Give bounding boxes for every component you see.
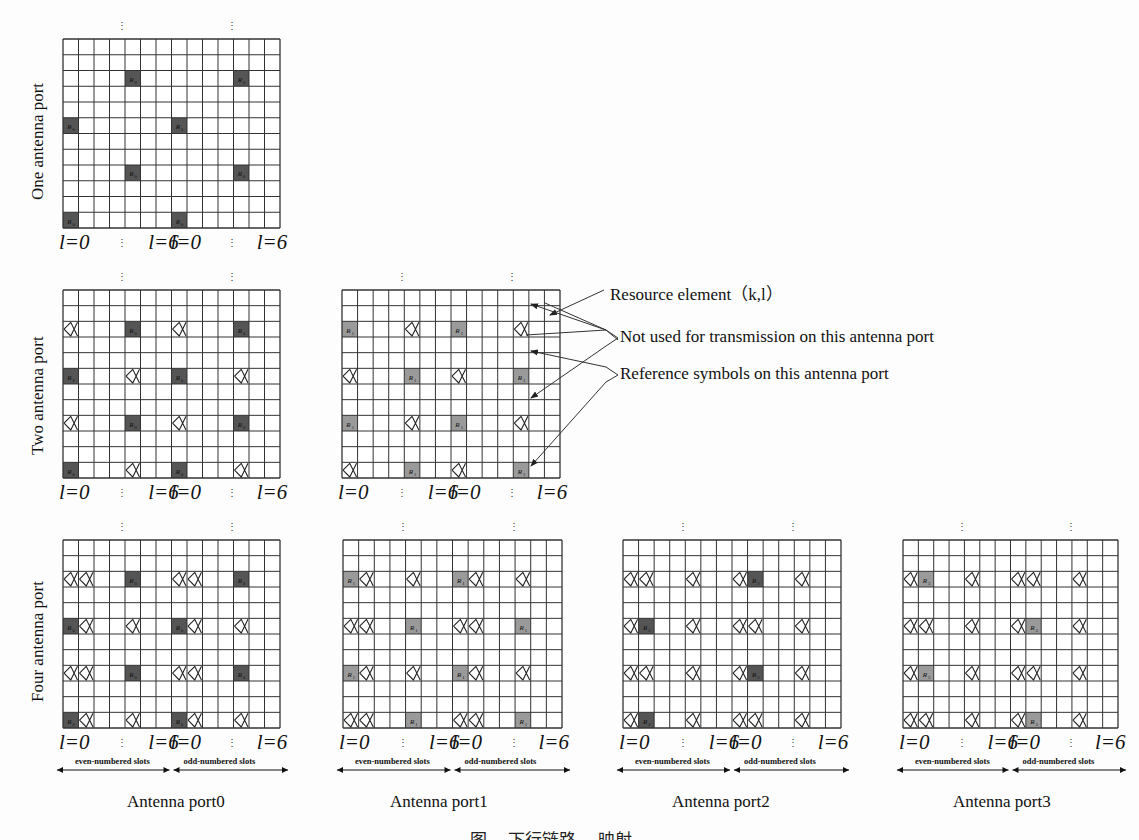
svg-text:1: 1 [352, 331, 354, 336]
svg-text:2: 2 [757, 581, 759, 586]
axis-label-l0: l=0 [171, 732, 202, 753]
ellipsis-vertical-icon: ⋮ [227, 272, 237, 282]
slot-label-odd: odd-numbered slots [465, 756, 537, 766]
svg-text:1: 1 [462, 675, 464, 680]
row-label-one-antenna-port: One antenna port [28, 83, 48, 200]
svg-text:R: R [128, 577, 134, 585]
ellipsis-vertical-icon: ⋮ [117, 21, 127, 31]
ellipsis-vertical-icon: ⋮ [1066, 738, 1076, 748]
svg-text:R: R [128, 76, 134, 84]
svg-text:R: R [517, 374, 523, 382]
svg-text:R: R [456, 671, 462, 679]
grid-four-port-antenna1: R1R1R1R1R1R1R1R1 [343, 540, 563, 729]
svg-text:1: 1 [352, 425, 354, 430]
svg-text:R: R [454, 327, 460, 335]
axis-label-l6: l=6 [539, 732, 570, 753]
svg-text:1: 1 [414, 378, 416, 383]
svg-text:2: 2 [648, 722, 650, 727]
row-label-four-antenna-port: Four antenna port [28, 581, 48, 702]
svg-text:2: 2 [648, 628, 650, 633]
svg-text:R: R [66, 624, 72, 632]
axis-label-l6: l=6 [537, 482, 568, 503]
svg-text:1: 1 [461, 425, 463, 430]
axis-label-l0: l=0 [450, 482, 481, 503]
port-label-2: Antenna port2 [672, 792, 770, 812]
ellipsis-vertical-icon: ⋮ [678, 738, 688, 748]
ellipsis-vertical-icon: ⋮ [397, 488, 407, 498]
svg-text:1: 1 [525, 722, 527, 727]
axis-label-l0: l=0 [171, 232, 202, 253]
svg-text:R: R [66, 218, 72, 226]
axis-label-l0: l=0 [59, 482, 90, 503]
slot-label-odd: odd-numbered slots [184, 756, 256, 766]
svg-text:R: R [66, 718, 72, 726]
svg-text:R: R [409, 624, 415, 632]
ellipsis-vertical-icon: ⋮ [957, 738, 967, 748]
svg-text:R: R [409, 718, 415, 726]
svg-text:R: R [751, 671, 757, 679]
slot-label-even: even-numbered slots [915, 756, 990, 766]
axis-label-l0: l=0 [171, 482, 202, 503]
axis-label-l6: l=6 [1095, 732, 1126, 753]
ellipsis-vertical-icon: ⋮ [398, 738, 408, 748]
ellipsis-vertical-icon: ⋮ [509, 738, 519, 748]
axis-label-l0: l=0 [338, 482, 369, 503]
axis-label-l0: l=0 [899, 732, 930, 753]
svg-text:R: R [517, 468, 523, 476]
ellipsis-vertical-icon: ⋮ [788, 522, 798, 532]
svg-text:R: R [128, 671, 134, 679]
svg-text:R: R [128, 421, 134, 429]
svg-text:R: R [237, 421, 243, 429]
ellipsis-vertical-icon: ⋮ [678, 522, 688, 532]
axis-label-l6: l=6 [257, 232, 288, 253]
ellipsis-vertical-icon: ⋮ [227, 238, 237, 248]
axis-label-l0: l=0 [1010, 732, 1041, 753]
svg-text:R: R [922, 671, 928, 679]
svg-text:R: R [346, 671, 352, 679]
slot-label-odd: odd-numbered slots [1023, 756, 1095, 766]
svg-text:2: 2 [757, 675, 759, 680]
svg-text:R: R [237, 327, 243, 335]
svg-text:R: R [346, 577, 352, 585]
grid-four-port-antenna0: R0R0R0R0R0R0R0R0 [63, 540, 281, 729]
ellipsis-vertical-icon: ⋮ [1066, 522, 1076, 532]
svg-text:R: R [456, 577, 462, 585]
slot-label-even: even-numbered slots [75, 756, 150, 766]
svg-text:R: R [66, 374, 72, 382]
svg-text:R: R [408, 468, 414, 476]
ellipsis-vertical-icon: ⋮ [227, 488, 237, 498]
legend-resource-element: Resource element（k,l） [610, 280, 783, 305]
svg-text:R: R [66, 468, 72, 476]
svg-text:R: R [66, 123, 72, 131]
svg-text:R: R [518, 624, 524, 632]
ellipsis-vertical-icon: ⋮ [227, 522, 237, 532]
svg-text:1: 1 [525, 628, 527, 633]
svg-text:R: R [642, 624, 648, 632]
grid-four-port-antenna2: R2R2R2R2 [623, 540, 842, 729]
svg-text:R: R [922, 577, 928, 585]
legend-reference-symbols: Reference symbols on this antenna port [620, 364, 889, 384]
svg-text:1: 1 [415, 628, 417, 633]
svg-text:R: R [454, 421, 460, 429]
svg-text:R: R [128, 170, 134, 178]
axis-label-l6: l=6 [257, 732, 288, 753]
ellipsis-vertical-icon: ⋮ [397, 272, 407, 282]
figure-caption: 图 ... 下行链路 ... 映射 [470, 826, 632, 840]
ellipsis-vertical-icon: ⋮ [788, 738, 798, 748]
resource-grid-svg: R0R0R0R0R0R0R0R0 [63, 540, 281, 729]
svg-text:R: R [408, 374, 414, 382]
ellipsis-vertical-icon: ⋮ [227, 21, 237, 31]
resource-grid-svg: R2R2R2R2 [623, 540, 842, 729]
svg-text:R: R [175, 624, 181, 632]
resource-grid-svg: R1R1R1R1R1R1R1R1 [343, 540, 563, 729]
row-label-two-antenna-port: Two antenna port [28, 336, 48, 455]
axis-label-l0: l=0 [59, 232, 90, 253]
resource-grid-svg: R3R3R3R3 [903, 540, 1119, 729]
resource-grid-svg: R0R0R0R0R0R0R0R0 [63, 290, 281, 479]
svg-text:R: R [1029, 718, 1035, 726]
svg-text:R: R [128, 327, 134, 335]
svg-text:R: R [345, 327, 351, 335]
grid-two-port-antenna0: R0R0R0R0R0R0R0R0 [63, 290, 281, 479]
svg-text:R: R [175, 123, 181, 131]
svg-text:R: R [1029, 624, 1035, 632]
